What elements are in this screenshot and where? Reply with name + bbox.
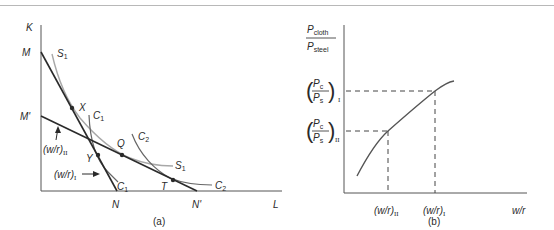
label-c2-top: C2: [138, 131, 149, 143]
paren-close: ): [328, 78, 335, 103]
point-q: [120, 153, 124, 157]
caption-b: (b): [428, 216, 440, 227]
label-c1-bottom: C1: [117, 181, 128, 193]
label-wr-i: (w/r)I: [54, 169, 77, 182]
point-t: [171, 178, 175, 182]
tick-y-ii: ( Pc Ps ) II: [306, 118, 340, 144]
tick-ii-num: Pc: [313, 118, 324, 130]
label-s1-right: S1: [175, 160, 186, 172]
label-c2-right: C2: [215, 180, 226, 192]
label-s1-top: S1: [57, 48, 68, 60]
label-wr-ii: (w/r)II: [43, 144, 68, 157]
caption-a: (a): [153, 216, 165, 227]
label-q: Q: [117, 138, 125, 149]
label-wr: w/r: [512, 205, 526, 216]
panel-b: Pcloth Psteel ( Pc Ps ) I ( Pc Ps ) II (…: [306, 24, 527, 227]
arrow-wr-ii-head: [55, 126, 61, 133]
point-y: [96, 153, 100, 157]
regime-ii: II: [335, 136, 340, 144]
label-x: X: [78, 102, 86, 113]
arrow-wr-i-head: [93, 171, 100, 177]
tick-i-num: Pc: [313, 78, 324, 90]
label-m-prime: M': [20, 111, 31, 122]
label-n: N: [112, 199, 120, 210]
tick-ii-den: Ps: [313, 132, 324, 144]
isoquant-s1: [52, 54, 173, 166]
panel-a: K M M' N N' L (a) S1 S1 C1 C1 C2 C2 X Y …: [20, 22, 282, 227]
figure: K M M' N N' L (a) S1 S1 C1 C1 C2 C2 X Y …: [0, 0, 554, 230]
label-k: K: [26, 22, 34, 33]
label-t: T: [161, 181, 168, 192]
label-c1-top: C1: [93, 110, 104, 122]
regime-i: I: [338, 96, 341, 104]
point-x: [70, 106, 74, 110]
tick-y-i: ( Pc Ps ) I: [306, 78, 341, 104]
label-p-cloth: Pcloth: [307, 24, 329, 36]
tick-x-wr-ii: (w/r)II: [374, 205, 399, 218]
label-l: L: [273, 199, 279, 210]
label-y: Y: [86, 153, 94, 164]
price-ratio-curve: [357, 81, 454, 176]
tick-i-den: Ps: [313, 92, 324, 104]
label-m: M: [22, 47, 31, 58]
label-n-prime: N': [192, 199, 202, 210]
label-p-steel: Psteel: [307, 41, 329, 53]
